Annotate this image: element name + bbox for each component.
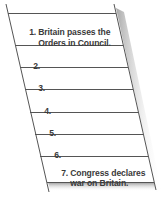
row-7-text-line2: war on Britain. (70, 178, 128, 188)
row-3-number: 3. (38, 83, 47, 93)
row-2-number: 2. (33, 61, 42, 71)
row-7-label-cont: war on Britain. (52, 168, 128, 198)
row-5-number: 5. (49, 128, 58, 138)
row-1-text-line2: Orders in Council. (38, 38, 111, 48)
row-4-number: 4. (44, 106, 53, 116)
sequence-diagram: 1.Britain passes the Orders in Council. … (0, 0, 163, 200)
